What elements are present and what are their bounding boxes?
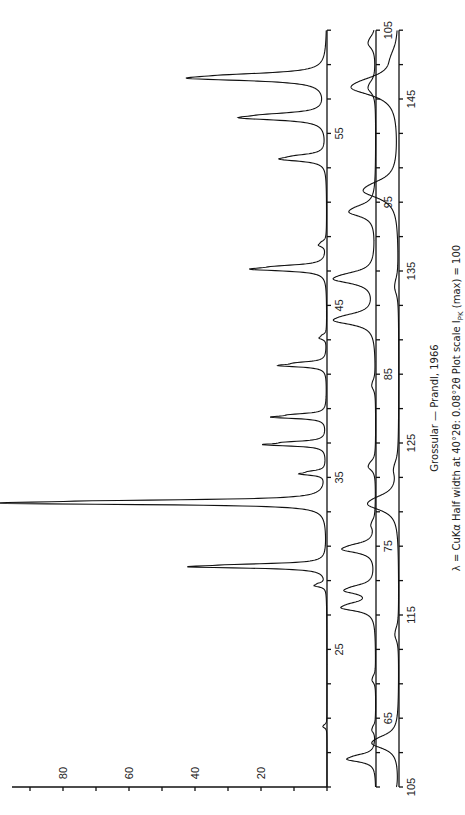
intensity-tick-label: 60 bbox=[123, 767, 135, 779]
intensity-tick-label: 20 bbox=[255, 767, 267, 779]
chart-title: Grossular — Prandl, 1966 bbox=[429, 344, 440, 471]
two-theta-tick-label: 75 bbox=[382, 540, 394, 552]
two-theta-tick-label: 45 bbox=[333, 299, 345, 311]
panel-1 bbox=[0, 30, 331, 787]
two-theta-tick-label: 95 bbox=[382, 196, 394, 208]
two-theta-tick-label: 35 bbox=[333, 471, 345, 483]
diffraction-trace bbox=[333, 30, 375, 787]
two-theta-tick-label: 125 bbox=[405, 434, 417, 452]
two-theta-tick-label: 135 bbox=[405, 262, 417, 280]
two-theta-tick-label: 55 bbox=[333, 127, 345, 139]
intensity-tick-label: 80 bbox=[57, 767, 69, 779]
two-theta-tick-label: 85 bbox=[382, 368, 394, 380]
diffraction-traces bbox=[0, 30, 403, 787]
chart-caption: Grossular — Prandl, 1966 λ = CuKα Half w… bbox=[429, 245, 465, 571]
xrd-pattern-chart: 2040608025354555657585951051051151251351… bbox=[0, 0, 465, 815]
panel-2 bbox=[333, 30, 380, 787]
two-theta-tick-label: 65 bbox=[382, 712, 394, 724]
diffraction-trace bbox=[0, 31, 327, 787]
intensity-tick-label: 40 bbox=[189, 767, 201, 779]
two-theta-tick-label: 105 bbox=[382, 21, 394, 39]
chart-subtitle: λ = CuKα Half width at 40°2θ: 0.08°2θ Pl… bbox=[451, 245, 465, 571]
chart-axes bbox=[12, 787, 327, 791]
two-theta-tick-label: 105 bbox=[405, 778, 417, 796]
two-theta-tick-label: 145 bbox=[405, 90, 417, 108]
two-theta-tick-label: 115 bbox=[405, 606, 417, 624]
diffraction-trace bbox=[351, 31, 399, 787]
tick-labels: 2040608025354555657585951051051151251351… bbox=[57, 21, 417, 796]
two-theta-tick-label: 25 bbox=[333, 643, 345, 655]
